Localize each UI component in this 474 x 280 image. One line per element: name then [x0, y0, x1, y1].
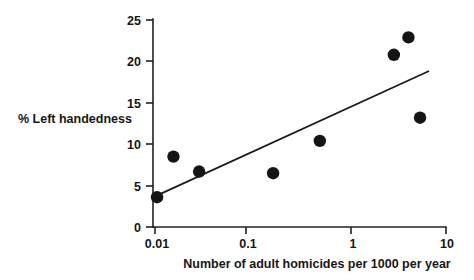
y-tick-label-20: 20	[127, 55, 141, 69]
y-tick-label-10: 10	[127, 138, 141, 152]
y-tick-label-25: 25	[127, 14, 141, 28]
x-axis-title: Number of adult homicides per 1000 per y…	[183, 257, 451, 271]
data-point	[402, 31, 414, 43]
x-tick-label-0.01: 0.01	[145, 237, 169, 251]
y-tick-label-5: 5	[134, 180, 141, 194]
data-points-group	[151, 31, 426, 203]
data-point	[193, 165, 205, 177]
data-point	[314, 135, 326, 147]
trend-line	[155, 71, 429, 196]
y-axis-title: % Left handedness	[18, 112, 132, 126]
x-tick-label-10: 10	[440, 237, 454, 251]
chart-canvas: 25 20 15 10 5 0 0.01 0.1 1 10 Number of …	[0, 0, 474, 280]
data-point	[388, 49, 400, 61]
x-tick-label-0.1: 0.1	[239, 237, 256, 251]
data-point	[267, 167, 279, 179]
y-tick-label-0: 0	[134, 221, 141, 235]
data-point	[151, 191, 163, 203]
scatter-chart: 25 20 15 10 5 0 0.01 0.1 1 10 Number of …	[0, 0, 474, 280]
data-point	[167, 150, 179, 162]
data-point	[414, 112, 426, 124]
y-tick-label-15: 15	[127, 97, 141, 111]
x-tick-label-1: 1	[350, 237, 357, 251]
